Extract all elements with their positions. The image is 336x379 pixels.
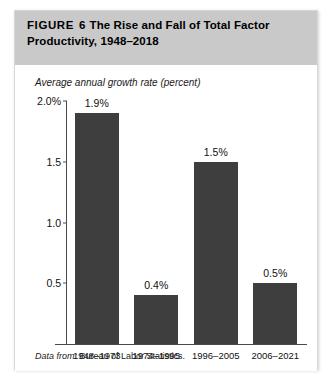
bar-value-label: 0.5% (263, 267, 287, 279)
x-axis-line (55, 344, 307, 345)
figure-title-line-1: FIGURE6The Rise and Fall of Total Factor (27, 17, 305, 33)
y-axis-tick-mark (63, 222, 67, 223)
bar-group: 1.9%1948–1973 (75, 101, 119, 344)
bar-group: 1.5%1996–2005 (194, 101, 238, 344)
bar (75, 113, 119, 344)
y-axis-tick-label: 1.0 (46, 217, 61, 229)
bar-value-label: 0.4% (144, 279, 168, 291)
source-text: Bureau of Labor Statistics. (80, 351, 186, 361)
y-axis-tick-label: 1.5 (46, 156, 61, 168)
y-axis-tick-mark (63, 283, 67, 284)
y-axis-tick-label: 0.5 (46, 277, 61, 289)
figure-title-line-2: Productivity, 1948–2018 (27, 33, 305, 49)
y-axis-tick-mark (63, 101, 67, 102)
source-note: Data from: Bureau of Labor Statistics. (35, 351, 185, 361)
bar (253, 283, 297, 344)
figure-title-text-1: The Rise and Fall of Total Factor (90, 19, 270, 31)
bar-group: 0.5%2006–2021 (253, 101, 297, 344)
y-axis-title: Average annual growth rate (percent) (35, 77, 200, 88)
figure-panel: FIGURE6The Rise and Fall of Total Factor… (14, 10, 318, 370)
bar-value-label: 1.5% (204, 146, 228, 158)
figure-title-band: FIGURE6The Rise and Fall of Total Factor… (15, 11, 317, 65)
figure-label: FIGURE (27, 19, 74, 31)
chart-body: Average annual growth rate (percent) 0.5… (15, 65, 317, 371)
y-axis-tick-label: 2.0% (37, 95, 61, 107)
x-axis-category-label: 2006–2021 (251, 350, 299, 361)
source-label: Data from: (35, 351, 77, 361)
y-axis-tick-mark (63, 161, 67, 162)
plot-area: 0.51.01.52.0%1.9%1948–19730.4%1974–19951… (67, 101, 305, 344)
figure-number: 6 (74, 19, 90, 31)
bar-value-label: 1.9% (85, 97, 109, 109)
x-axis-category-label: 1996–2005 (192, 350, 240, 361)
bar (134, 295, 178, 344)
bar-group: 0.4%1974–1995 (134, 101, 178, 344)
bar (194, 162, 238, 344)
